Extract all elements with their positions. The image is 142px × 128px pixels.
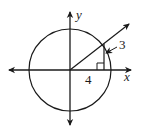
adjacent-side-label: 4 — [85, 72, 92, 87]
y-axis-label: y — [74, 7, 82, 22]
x-axis-label: x — [123, 69, 130, 84]
opposite-side-label: 3 — [119, 37, 126, 52]
unit-circle-diagram: y x 4 3 — [0, 0, 142, 128]
right-angle-marker — [97, 63, 104, 70]
opposite-label-pointer — [106, 47, 117, 53]
